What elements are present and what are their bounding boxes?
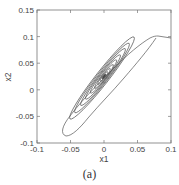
y-tick-label: 0.15 xyxy=(18,6,34,15)
y-axis-label: x2 xyxy=(3,72,13,81)
y-tick-label: 0.1 xyxy=(23,33,35,42)
y-tick-label: 0 xyxy=(30,86,35,95)
x-tick-label: 0.05 xyxy=(130,145,146,154)
x-tick-label: 0.1 xyxy=(165,145,177,154)
contour-chart: -0.1 -0.05 0 0.05 0.1 -0.1 -0.05 0 0.05 … xyxy=(0,0,179,185)
y-tick-label: -0.1 xyxy=(20,139,34,148)
y-tick-label: -0.05 xyxy=(16,112,35,121)
x-tick-label: -0.05 xyxy=(61,145,80,154)
x-tick-label: 0 xyxy=(102,145,107,154)
x-axis-label: x1 xyxy=(100,154,109,164)
y-tick-label: 0.05 xyxy=(18,59,34,68)
figure-caption: (a) xyxy=(0,167,179,182)
